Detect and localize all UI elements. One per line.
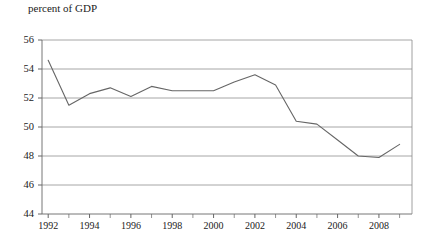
- x-axis-label-2008: 2008: [359, 221, 399, 231]
- y-axis-label-54: 54: [12, 64, 34, 75]
- y-axis-label-46: 46: [12, 180, 34, 191]
- y-axis-label-48: 48: [12, 151, 34, 162]
- gridlines-group: [42, 40, 412, 214]
- chart-figure: percent of GDP 56545250484644 1992199419…: [0, 0, 430, 252]
- y-axis-label-56: 56: [12, 35, 34, 46]
- x-axis-label-2002: 2002: [235, 221, 275, 231]
- x-axis-label-1996: 1996: [111, 221, 151, 231]
- x-axis-label-2004: 2004: [276, 221, 316, 231]
- x-axis-label-2000: 2000: [194, 221, 234, 231]
- x-axis-label-1994: 1994: [70, 221, 110, 231]
- x-axis-ticks-group: [48, 214, 399, 218]
- x-axis-label-1992: 1992: [28, 221, 68, 231]
- y-axis-ticks-group: [38, 40, 42, 214]
- y-axis-label-50: 50: [12, 122, 34, 133]
- data-series-line: [48, 60, 399, 157]
- y-axis-label-52: 52: [12, 93, 34, 104]
- x-axis-label-2006: 2006: [318, 221, 358, 231]
- y-axis-label-44: 44: [12, 209, 34, 220]
- x-axis-label-1998: 1998: [152, 221, 192, 231]
- line-chart-plot: [0, 0, 430, 252]
